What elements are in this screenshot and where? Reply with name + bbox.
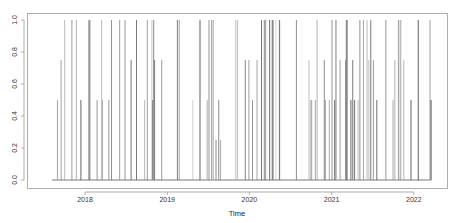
- y-tick-label: 0.6: [11, 79, 18, 89]
- y-axis: 0.00.20.40.60.81.0: [11, 15, 24, 185]
- y-tick-label: 0.2: [11, 143, 18, 153]
- y-tick-label: 1.0: [11, 15, 18, 25]
- x-tick-label: 2020: [242, 196, 258, 203]
- y-tick-label: 0.0: [11, 175, 18, 185]
- x-axis: 20182019202020212022: [77, 192, 421, 203]
- x-tick-label: 2022: [406, 196, 422, 203]
- series-lines: [52, 20, 431, 180]
- x-tick-label: 2019: [159, 196, 175, 203]
- y-tick-label: 0.8: [11, 47, 18, 57]
- x-tick-label: 2018: [77, 196, 93, 203]
- x-axis-title: Time: [229, 209, 245, 218]
- y-tick-label: 0.4: [11, 111, 18, 121]
- time-series-chart: 0.00.20.40.60.81.0 20182019202020212022 …: [0, 0, 458, 223]
- x-tick-label: 2021: [324, 196, 340, 203]
